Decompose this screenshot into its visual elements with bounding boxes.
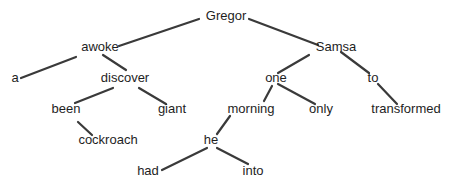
node-samsa: Samsa (316, 39, 357, 54)
edge-he-had (162, 148, 207, 170)
node-cockroach: cockroach (78, 132, 137, 147)
node-he: he (204, 132, 218, 147)
node-a: a (11, 70, 19, 85)
node-discover: discover (101, 70, 150, 85)
node-awoke: awoke (81, 39, 119, 54)
edge-he-into (217, 148, 248, 164)
edge-morning-he (217, 116, 230, 134)
edge-discover-been (75, 88, 113, 103)
edge-samsa-to (341, 52, 369, 73)
node-morning: morning (228, 101, 275, 116)
node-transformed: transformed (371, 101, 440, 116)
node-gregor: Gregor (206, 8, 247, 23)
node-to: to (368, 70, 379, 85)
node-into: into (243, 163, 264, 178)
node-had: had (137, 163, 159, 178)
dependency-tree-diagram: GregorawokeSamsaadiscoveronetobeengiantm… (0, 0, 452, 185)
node-been: been (52, 101, 81, 116)
edge-awoke-discover (103, 55, 126, 70)
node-only: only (309, 101, 333, 116)
edge-one-morning (264, 86, 272, 101)
edge-gregor-awoke (119, 19, 199, 46)
edge-awoke-a (21, 57, 76, 78)
edge-gregor-samsa (249, 19, 318, 45)
node-giant: giant (158, 101, 187, 116)
node-one: one (265, 70, 287, 85)
